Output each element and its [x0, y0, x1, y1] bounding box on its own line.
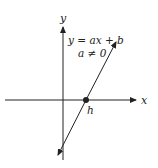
function-line-lower: [58, 98, 87, 155]
equation-label: y = ax + b: [67, 34, 124, 46]
condition-label: a ≠ 0: [78, 47, 107, 59]
x-intercept-point: [83, 97, 89, 103]
intercept-label: h: [87, 104, 94, 116]
x-axis-label: x: [141, 94, 148, 107]
y-axis-label: y: [59, 12, 67, 25]
linear-function-graph: y x y = ax + b a ≠ 0 h: [0, 0, 158, 168]
